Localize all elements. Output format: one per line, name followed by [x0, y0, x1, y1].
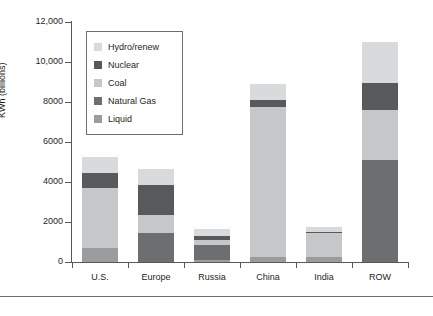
legend-swatch-icon [94, 43, 102, 51]
x-axis-tick [184, 262, 185, 268]
y-axis-tick [65, 22, 71, 23]
legend-item-coal[interactable]: Coal [94, 74, 176, 92]
x-axis-tick [408, 262, 409, 268]
bar-india[interactable] [306, 22, 342, 262]
legend-swatch-icon [94, 79, 102, 87]
bar-segment-hydrorenew [306, 227, 342, 232]
bar-russia[interactable] [194, 22, 230, 262]
y-axis-tick-labels: 0200040006000800010,00012,000 [0, 0, 63, 300]
bar-segment-liquid [250, 257, 286, 262]
bar-segment-coal [306, 233, 342, 257]
legend-item-liquid[interactable]: Liquid [94, 110, 176, 128]
bar-segment-liquid [194, 260, 230, 262]
bar-segment-coal [82, 188, 118, 248]
legend-swatch-icon [94, 61, 102, 69]
bar-china[interactable] [250, 22, 286, 262]
y-axis-tick [65, 222, 71, 223]
bar-row[interactable] [362, 22, 398, 262]
x-axis-tick [128, 262, 129, 268]
x-axis-tick [352, 262, 353, 268]
y-axis-tick [65, 142, 71, 143]
legend-label: Nuclear [108, 61, 139, 70]
legend-item-hydrorenew[interactable]: Hydro/renew [94, 38, 176, 56]
y-axis-tick-label: 6000 [43, 137, 63, 146]
bar-segment-nuclear [82, 173, 118, 188]
x-axis-tick [296, 262, 297, 268]
y-axis-tick-label: 2000 [43, 217, 63, 226]
x-axis-label-us: U.S. [72, 272, 128, 282]
x-axis-tick [72, 262, 73, 268]
bar-segment-hydrorenew [362, 42, 398, 83]
legend-label: Coal [108, 79, 127, 88]
bar-segment-naturalgas [138, 233, 174, 262]
legend-swatch-icon [94, 115, 102, 123]
x-axis-label-russia: Russia [184, 272, 240, 282]
y-axis-tick-label: 8000 [43, 97, 63, 106]
y-axis-tick [65, 102, 71, 103]
bar-segment-nuclear [250, 100, 286, 107]
bar-segment-hydrorenew [138, 169, 174, 185]
y-axis-tick [65, 182, 71, 183]
legend-label: Liquid [108, 115, 132, 124]
y-axis-tick [65, 62, 71, 63]
chart-figure: KWh (billions) 0200040006000800010,00012… [0, 0, 433, 316]
bar-segment-hydrorenew [82, 157, 118, 173]
chart-legend: Hydro/renewNuclearCoalNatural GasLiquid [86, 31, 183, 135]
bar-segment-nuclear [194, 236, 230, 240]
bar-segment-naturalgas [194, 245, 230, 260]
y-axis-tick-label: 10,000 [35, 57, 63, 66]
y-axis-tick-label: 0 [58, 257, 63, 266]
bar-segment-coal [138, 215, 174, 233]
legend-label: Hydro/renew [108, 43, 159, 52]
y-axis-tick [65, 262, 71, 263]
bar-segment-hydrorenew [194, 229, 230, 236]
bar-segment-nuclear [362, 83, 398, 110]
bar-segment-naturalgas [362, 160, 398, 262]
x-axis-tick [240, 262, 241, 268]
bar-segment-liquid [306, 257, 342, 262]
legend-label: Natural Gas [108, 97, 156, 106]
x-axis-label-india: India [296, 272, 352, 282]
bar-segment-coal [194, 240, 230, 245]
bar-segment-nuclear [138, 185, 174, 215]
x-axis-label-europe: Europe [128, 272, 184, 282]
bar-segment-nuclear [306, 232, 342, 233]
bar-segment-coal [362, 110, 398, 160]
bar-segment-hydrorenew [250, 84, 286, 100]
y-axis-tick-label: 4000 [43, 177, 63, 186]
bar-segment-liquid [82, 248, 118, 262]
legend-item-naturalgas[interactable]: Natural Gas [94, 92, 176, 110]
y-axis-tick-label: 12,000 [35, 17, 63, 26]
bar-segment-coal [250, 107, 286, 257]
legend-item-nuclear[interactable]: Nuclear [94, 56, 176, 74]
legend-swatch-icon [94, 97, 102, 105]
footer-divider [0, 296, 433, 297]
x-axis-label-row: ROW [352, 272, 408, 282]
x-axis-label-china: China [240, 272, 296, 282]
